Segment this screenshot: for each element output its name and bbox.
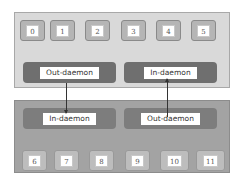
- slot-label: 4: [162, 25, 175, 37]
- bottom-out-daemon: Out-daemon: [124, 108, 217, 129]
- slot-label: 9: [131, 155, 144, 167]
- slot-label: 11: [203, 155, 218, 167]
- slot-label: 5: [197, 25, 210, 37]
- daemon-label: In-daemon: [144, 67, 196, 79]
- slot-label: 2: [91, 25, 104, 37]
- bottom-node-panel: In-daemon Out-daemon 6 7 8 9 10 11: [14, 100, 230, 173]
- top-node-panel: 0 1 2 3 4 5 Out-daemon In-daemon: [14, 12, 230, 88]
- slot-label: 6: [28, 155, 41, 167]
- slot-label: 8: [95, 155, 108, 167]
- slot-1: 1: [50, 20, 75, 41]
- slot-label: 10: [167, 155, 182, 167]
- arrow-up-icon: [167, 79, 168, 117]
- slot-3: 3: [121, 20, 146, 41]
- top-in-daemon: In-daemon: [124, 62, 217, 83]
- bottom-in-daemon: In-daemon: [23, 108, 116, 129]
- slot-2: 2: [85, 20, 110, 41]
- top-out-daemon: Out-daemon: [23, 62, 116, 83]
- arrow-down-icon: [66, 83, 67, 113]
- slot-label: 0: [26, 25, 39, 37]
- slot-9: 9: [125, 150, 150, 171]
- slot-5: 5: [191, 20, 216, 41]
- slot-10: 10: [160, 150, 189, 171]
- slot-6: 6: [22, 150, 47, 171]
- slot-8: 8: [89, 150, 114, 171]
- daemon-label: In-daemon: [43, 113, 95, 125]
- slot-label: 7: [60, 155, 73, 167]
- slot-0: 0: [20, 20, 45, 41]
- slot-label: 1: [56, 25, 69, 37]
- daemon-label: Out-daemon: [40, 67, 99, 79]
- daemon-label: Out-daemon: [141, 113, 200, 125]
- slot-4: 4: [156, 20, 181, 41]
- slot-11: 11: [196, 150, 225, 171]
- slot-label: 3: [127, 25, 140, 37]
- slot-7: 7: [54, 150, 79, 171]
